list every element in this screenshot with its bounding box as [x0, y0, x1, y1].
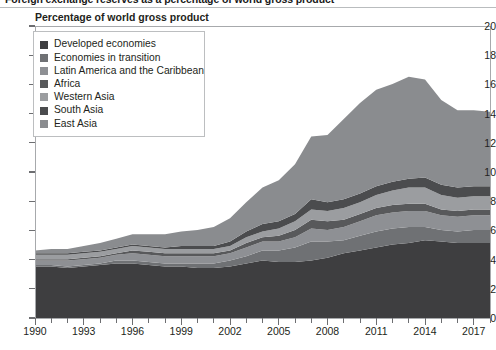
- legend-item-label: Developed economies: [54, 39, 156, 49]
- y-tick: [29, 201, 35, 202]
- legend-item[interactable]: Latin America and the Caribbean: [40, 64, 197, 77]
- x-tick: [230, 318, 231, 325]
- y-tick-label: 16: [472, 79, 496, 90]
- y-tick-label: 20: [472, 21, 496, 32]
- x-tick: [425, 318, 426, 325]
- x-tick: [311, 318, 312, 323]
- legend-swatch-icon: [40, 93, 48, 101]
- legend-swatch-icon: [40, 67, 48, 75]
- legend-swatch-icon: [40, 107, 48, 115]
- x-tick: [343, 318, 344, 323]
- x-tick-label: 2005: [259, 326, 299, 338]
- y-tick: [29, 259, 35, 260]
- y-tick: [29, 142, 35, 143]
- x-tick-label: 2014: [405, 326, 445, 338]
- x-tick: [100, 318, 101, 323]
- legend-item-label: Latin America and the Caribbean: [54, 66, 204, 76]
- x-tick-label: 1993: [64, 326, 104, 338]
- x-tick: [51, 318, 52, 323]
- y-tick-label: 8: [472, 196, 496, 207]
- x-tick-label: 1990: [15, 326, 55, 338]
- legend-swatch-icon: [40, 120, 48, 128]
- x-tick-label: 1996: [113, 326, 153, 338]
- legend-item[interactable]: Africa: [40, 78, 197, 91]
- x-tick: [197, 318, 198, 323]
- x-tick-label: 2002: [210, 326, 250, 338]
- y-tick-label: 2: [472, 284, 496, 295]
- y-tick: [29, 230, 35, 231]
- legend-item[interactable]: Western Asia: [40, 91, 197, 104]
- chart-subtitle: Percentage of world gross product: [35, 11, 209, 23]
- y-tick-label: 10: [472, 167, 496, 178]
- y-tick: [29, 171, 35, 172]
- y-tick-label: 0: [472, 313, 496, 324]
- x-tick: [246, 318, 247, 323]
- y-tick-label: 14: [472, 109, 496, 120]
- x-tick-label: 2011: [356, 326, 396, 338]
- x-tick: [360, 318, 361, 323]
- x-tick: [408, 318, 409, 323]
- x-tick: [441, 318, 442, 323]
- legend-item-label: Africa: [54, 79, 80, 89]
- x-tick: [392, 318, 393, 323]
- y-tick-label: 18: [472, 50, 496, 61]
- legend-swatch-icon: [40, 80, 48, 88]
- x-tick-label: 2008: [308, 326, 348, 338]
- x-tick: [35, 318, 36, 325]
- y-tick-label: 6: [472, 225, 496, 236]
- x-tick: [132, 318, 133, 325]
- x-tick: [376, 318, 377, 325]
- x-tick: [165, 318, 166, 323]
- x-tick: [327, 318, 328, 325]
- legend-item[interactable]: Economies in transition: [40, 51, 197, 64]
- x-tick: [213, 318, 214, 323]
- y-tick: [29, 288, 35, 289]
- legend-swatch-icon: [40, 54, 48, 62]
- legend-item-label: South Asia: [54, 105, 103, 115]
- x-tick: [181, 318, 182, 325]
- legend-item[interactable]: Developed economies: [40, 38, 197, 51]
- x-tick: [473, 318, 474, 325]
- x-tick: [490, 318, 491, 323]
- x-tick: [295, 318, 296, 323]
- legend-item-label: Western Asia: [54, 92, 114, 102]
- legend-item[interactable]: South Asia: [40, 104, 197, 117]
- legend-swatch-icon: [40, 41, 48, 49]
- x-tick: [67, 318, 68, 323]
- x-tick: [116, 318, 117, 323]
- x-tick-label: 1999: [161, 326, 201, 338]
- y-tick-label: 4: [472, 255, 496, 266]
- headline-divider: [0, 7, 496, 8]
- y-tick: [29, 25, 35, 26]
- x-tick: [278, 318, 279, 325]
- x-tick: [148, 318, 149, 323]
- legend-item-label: East Asia: [54, 119, 97, 129]
- y-tick-label: 12: [472, 138, 496, 149]
- x-tick-label: 2017: [454, 326, 494, 338]
- legend-item[interactable]: East Asia: [40, 117, 197, 130]
- x-tick: [83, 318, 84, 325]
- figure-headline: Foreign exchange reserves as a percentag…: [5, 0, 491, 7]
- x-tick: [262, 318, 263, 323]
- chart-legend: Developed economiesEconomies in transiti…: [33, 31, 205, 137]
- legend-item-label: Economies in transition: [54, 53, 160, 63]
- figure-container: Foreign exchange reserves as a percentag…: [0, 0, 496, 350]
- x-tick: [457, 318, 458, 323]
